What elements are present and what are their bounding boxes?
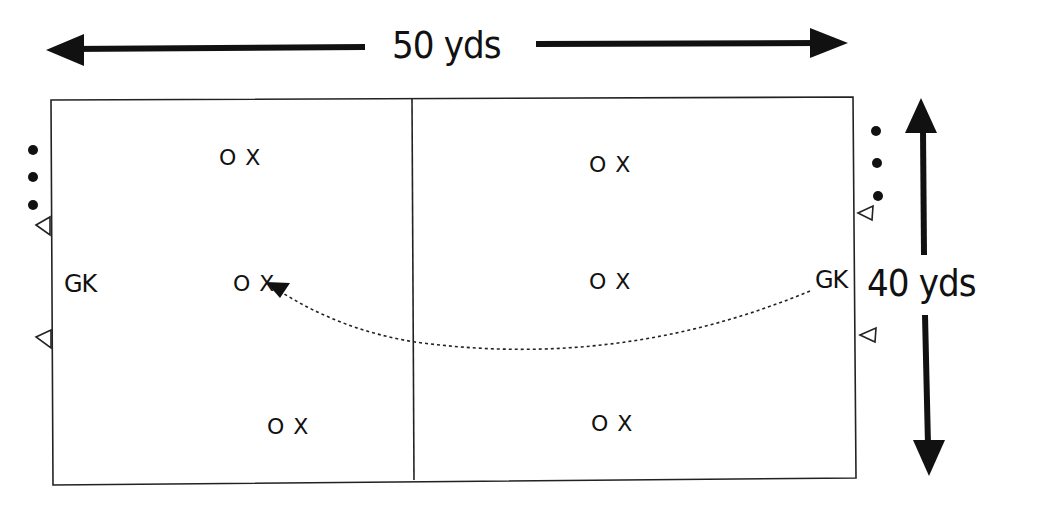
cone-icon [36,217,50,235]
height-label: 40 yds [867,264,976,302]
halfway-line [412,99,414,480]
player-pair-left-middle: O X [233,273,275,295]
right-balls [871,126,883,201]
cone-icon [860,328,876,342]
left-goal-cones [36,217,51,348]
player-pair-left-bottom: O X [267,416,309,438]
soccer-drill-diagram: 50 yds 40 yds GK GK O X O X O X O X O X … [0,0,1045,508]
goalkeeper-right: GK [815,268,847,292]
ball-icon [28,172,38,182]
field-boundary [51,97,856,485]
pass-arrow [266,282,810,349]
left-balls [28,145,38,210]
ball-icon [28,200,38,210]
ball-icon [872,158,882,168]
player-pair-right-bottom: O X [591,413,633,435]
field-graphics [0,0,1045,508]
ball-icon [28,145,38,155]
ball-icon [871,126,881,136]
player-pair-right-top: O X [589,154,631,176]
player-pair-left-top: O X [219,147,261,169]
width-label: 50 yds [392,26,501,64]
cone-icon [858,206,873,220]
ball-icon [873,191,883,201]
cone-icon [36,330,51,348]
player-pair-right-middle: O X [589,271,631,293]
goalkeeper-left: GK [64,272,96,296]
